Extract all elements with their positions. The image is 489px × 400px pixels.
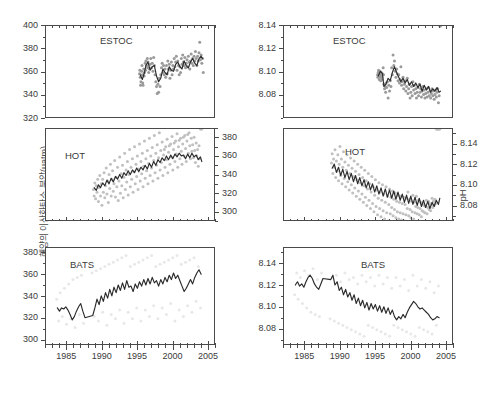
y-tick-minor: [281, 296, 284, 297]
x-tick-label: 1995: [359, 351, 391, 361]
x-tick-outer: [403, 345, 404, 348]
x-tick-outer: [318, 345, 319, 348]
panel-title-bottom-right: BATS: [361, 259, 385, 270]
x-tick-outer: [326, 345, 327, 348]
y-tick-label: 8.12: [246, 280, 276, 290]
y-tick: [279, 329, 283, 330]
x-tick-outer: [382, 345, 383, 348]
x-tick-outer: [354, 345, 355, 348]
x-tick-outer: [432, 345, 433, 348]
x-tick-outer: [425, 345, 426, 348]
x-tick-outer: [283, 345, 284, 348]
y-tick-minor: [281, 252, 284, 253]
y-tick-minor: [281, 318, 284, 319]
x-tick-label: 1985: [288, 351, 320, 361]
x-tick-outer: [389, 345, 390, 348]
x-tick-outer: [411, 345, 412, 350]
x-tick-outer: [297, 345, 298, 348]
x-tick-outer: [375, 345, 376, 350]
x-tick-outer: [453, 345, 454, 348]
x-tick-outer: [311, 345, 312, 348]
figure-root: 해양의 이산화탄소 분압(µatm) pH 320340360380400EST…: [0, 0, 489, 400]
x-tick-outer: [347, 345, 348, 348]
x-tick-outer: [340, 345, 341, 350]
x-tick-outer: [333, 345, 334, 348]
x-tick-label: 1990: [324, 351, 356, 361]
x-tick-outer: [368, 345, 369, 348]
y-tick: [279, 263, 283, 264]
y-tick: [279, 285, 283, 286]
x-tick-outer: [290, 345, 291, 348]
x-tick-outer: [396, 345, 397, 348]
y-tick-minor: [281, 274, 284, 275]
panel-bottom-right: 198519901995200020058.088.108.128.14BATS: [0, 0, 489, 400]
x-tick-outer: [446, 345, 447, 350]
x-tick-label: 2005: [430, 351, 462, 361]
y-tick-label: 8.08: [246, 323, 276, 333]
x-tick-label: 2000: [395, 351, 427, 361]
y-tick-minor: [281, 340, 284, 341]
y-tick-label: 8.14: [246, 258, 276, 268]
y-tick-label: 8.10: [246, 301, 276, 311]
x-tick-outer: [439, 345, 440, 348]
y-tick: [279, 307, 283, 308]
x-tick-outer: [304, 345, 305, 350]
x-tick-outer: [361, 345, 362, 348]
x-tick-outer: [418, 345, 419, 348]
